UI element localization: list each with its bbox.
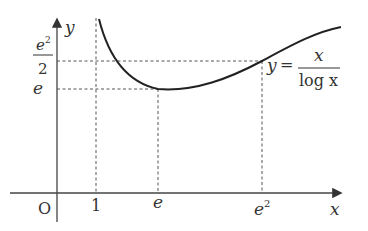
origin-label: O (38, 199, 51, 218)
x-axis-label: x (330, 199, 340, 219)
y-axis-label: y (64, 17, 75, 37)
y-tick-e: e (33, 78, 43, 98)
svg-text:x: x (314, 45, 324, 65)
svg-text:y: y (266, 55, 277, 75)
y-tick-e2-over-2: e2 2 (33, 35, 53, 78)
svg-text:=: = (280, 55, 293, 74)
svg-text:2: 2 (38, 60, 48, 78)
svg-text:log x: log x (299, 71, 338, 90)
svg-text:e2: e2 (36, 35, 51, 54)
x-tick-e2: e2 (254, 198, 270, 219)
function-graph: y x O 1 e e2 e e2 2 y = x log x (0, 0, 368, 231)
x-tick-1: 1 (91, 196, 101, 215)
function-label: y = x log x (266, 45, 340, 90)
x-tick-e: e (153, 192, 163, 212)
